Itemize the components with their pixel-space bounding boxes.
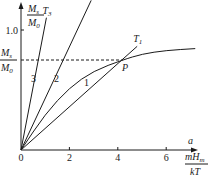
saturation-label: Ms M0: [0, 47, 17, 75]
y-axis-arrow: [19, 2, 24, 9]
temp-label-t3: T3: [42, 5, 52, 18]
svg-text:Ms: Ms: [0, 47, 12, 60]
svg-text:Ms: Ms: [27, 3, 39, 16]
x-axis-symbol: a: [188, 135, 193, 146]
svg-text:M0: M0: [27, 17, 40, 30]
x-tick-label: 0: [19, 152, 24, 163]
x-tick-label: 2: [67, 152, 72, 163]
point-p-label: P: [121, 62, 128, 73]
x-tick-label: 4: [115, 152, 120, 163]
y-tick-label: 1.0: [6, 25, 19, 36]
svg-text:M0: M0: [0, 62, 13, 75]
curve-number-3: 3: [31, 73, 36, 84]
x-tick-label: 6: [164, 152, 169, 163]
curve-number-1: 1: [84, 77, 89, 88]
curve-number-2: 2: [54, 73, 59, 84]
svg-text:mHm: mHm: [185, 151, 205, 164]
temp-label-t1: T1: [133, 33, 142, 46]
magnetization-diagram: 02461.0 T1T2T3123 Ms M0 Ms M0 a mHm kT P: [0, 0, 211, 180]
magnetization-curve: [21, 49, 195, 150]
x-axis-label: a mHm kT: [185, 135, 208, 177]
svg-text:kT: kT: [190, 166, 201, 177]
